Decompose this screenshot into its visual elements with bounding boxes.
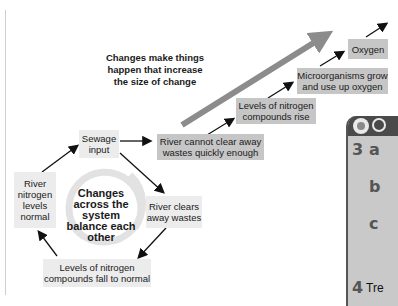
box-oxygen: Oxygen xyxy=(348,39,388,59)
target-icon xyxy=(353,118,369,134)
box-microorganisms: Microorganisms grow and use up oxygen xyxy=(297,68,388,94)
box-nitrogen-rise: Levels of nitrogen compounds rise xyxy=(236,98,316,124)
box-nitrogen-fall: Levels of nitrogen compounds fall to nor… xyxy=(43,259,151,287)
question-3c-label: c xyxy=(369,214,378,233)
question-4-number: 4 xyxy=(352,278,363,297)
question-3b-label: b xyxy=(369,177,380,196)
reinforcing-caption: Changes make things happen that increase… xyxy=(100,52,210,88)
box-river-cannot-clear: River cannot clear away wastes quickly e… xyxy=(157,134,264,160)
balancing-center-label: Changes across the system balance each o… xyxy=(62,188,140,243)
question-4-text: Tre xyxy=(366,281,384,295)
questions-panel: 3 a b c 4 Tre xyxy=(346,116,398,306)
question-3-number: 3 xyxy=(352,140,363,159)
box-river-clears: River clears away wastes xyxy=(146,196,202,228)
box-sewage-input: Sewage input xyxy=(79,130,119,158)
panel-title-glyph-icon xyxy=(372,118,386,132)
box-river-normal: River nitrogen levels normal xyxy=(14,172,56,228)
question-3a-label: a xyxy=(369,140,380,159)
panel-header xyxy=(348,116,398,136)
